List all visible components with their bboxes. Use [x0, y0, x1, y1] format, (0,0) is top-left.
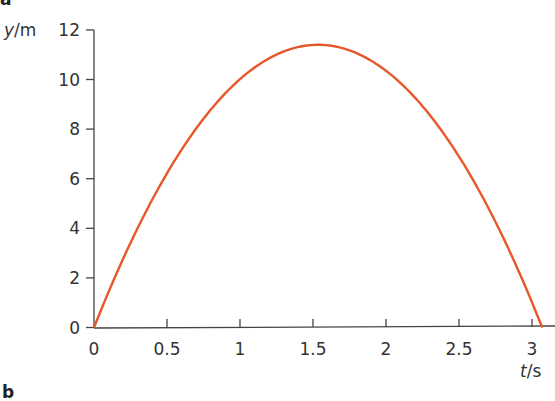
panel-label-b: b: [2, 382, 14, 401]
svg-text:2.5: 2.5: [445, 339, 472, 359]
svg-text:4: 4: [69, 218, 80, 238]
x-ticks: 00.511.522.53: [89, 319, 538, 359]
data-line: [94, 45, 542, 328]
svg-text:10: 10: [58, 70, 80, 90]
y-ticks: 024681012: [58, 20, 94, 338]
y-axis-label: y/m: [3, 20, 36, 40]
x-axis-label: t/s: [520, 361, 541, 381]
svg-text:12: 12: [58, 20, 80, 40]
x-axis: [94, 326, 555, 328]
svg-text:0.5: 0.5: [153, 339, 180, 359]
svg-text:6: 6: [69, 169, 80, 189]
svg-text:8: 8: [69, 119, 80, 139]
svg-text:0: 0: [69, 318, 80, 338]
projectile-height-chart: a 024681012 00.511.522.53 y/m t/s b: [0, 0, 555, 401]
svg-text:3: 3: [527, 339, 538, 359]
svg-text:2: 2: [69, 268, 80, 288]
svg-text:0: 0: [89, 339, 100, 359]
svg-text:1.5: 1.5: [299, 339, 326, 359]
svg-text:1: 1: [235, 339, 246, 359]
svg-text:2: 2: [381, 339, 392, 359]
panel-label-a: a: [0, 0, 11, 9]
